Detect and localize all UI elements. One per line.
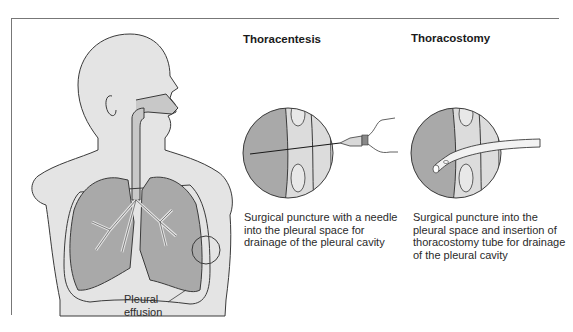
thoracostomy-caption: Surgical puncture into the pleural space… bbox=[413, 211, 565, 261]
caption-line: pleural space and insertion of bbox=[413, 224, 565, 237]
caption-line: of the pleural cavity bbox=[413, 249, 565, 262]
caption-line: thoracostomy tube for drainage bbox=[413, 236, 565, 249]
caption-line: drainage of the pleural cavity bbox=[244, 236, 397, 249]
thoracentesis-title: Thoracentesis bbox=[243, 33, 321, 45]
caption-line: into the pleural space for bbox=[244, 224, 397, 237]
thoracostomy-illustration bbox=[410, 100, 570, 200]
syringe-hub bbox=[340, 136, 362, 146]
label-line-2: effusion bbox=[124, 306, 162, 319]
thoracentesis-illustration bbox=[240, 100, 410, 200]
caption-line: Surgical puncture with a needle bbox=[244, 211, 397, 224]
thoracostomy-title: Thoracostomy bbox=[411, 32, 490, 44]
thoracentesis-caption: Surgical puncture with a needle into the… bbox=[244, 211, 397, 249]
torso-illustration bbox=[0, 0, 240, 332]
label-line-1: Pleural bbox=[124, 293, 162, 306]
pleural-effusion-label: Pleural effusion bbox=[124, 293, 162, 318]
tubing bbox=[368, 118, 398, 153]
caption-line: Surgical puncture into the bbox=[413, 211, 565, 224]
